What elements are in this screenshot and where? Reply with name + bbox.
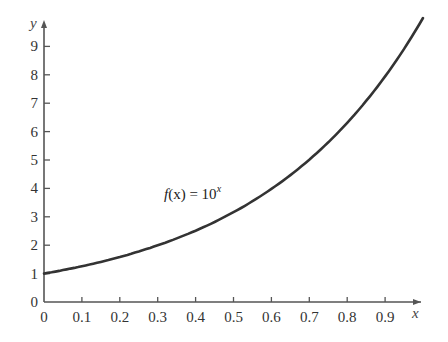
y-tick-label: 7 xyxy=(31,95,39,111)
x-tick-label: 0.3 xyxy=(148,309,167,325)
x-tick-label: 0.1 xyxy=(73,309,92,325)
x-axis-label: x xyxy=(411,305,419,321)
x-tick-label: 0.2 xyxy=(110,309,129,325)
x-tick-label: 0 xyxy=(40,309,48,325)
y-tick-label: 2 xyxy=(31,237,39,253)
y-tick-label: 9 xyxy=(31,38,39,54)
x-tick-label: 0.9 xyxy=(376,309,395,325)
function-exponent: x xyxy=(216,183,222,194)
x-tick-label: 0.7 xyxy=(300,309,319,325)
function-body: (x) = 10 xyxy=(168,186,216,203)
chart: 00.10.20.30.40.50.60.70.80.90123456789 y… xyxy=(0,0,448,342)
function-annotation: f(x) = 10x xyxy=(164,183,222,203)
y-tick-label: 4 xyxy=(31,180,39,196)
ticks: 00.10.20.30.40.50.60.70.80.90123456789 xyxy=(31,38,395,325)
function-curve xyxy=(44,18,423,274)
y-axis-arrow-icon xyxy=(41,20,47,28)
x-tick-label: 0.4 xyxy=(186,309,205,325)
y-tick-label: 1 xyxy=(31,266,39,282)
y-axis-label: y xyxy=(28,15,37,31)
y-tick-label: 0 xyxy=(31,294,39,310)
x-tick-label: 0.8 xyxy=(338,309,357,325)
x-tick-label: 0.6 xyxy=(262,309,281,325)
y-tick-label: 5 xyxy=(31,152,39,168)
x-tick-label: 0.5 xyxy=(224,309,243,325)
y-tick-label: 3 xyxy=(31,209,39,225)
y-tick-label: 8 xyxy=(31,67,39,83)
y-tick-label: 6 xyxy=(31,124,39,140)
